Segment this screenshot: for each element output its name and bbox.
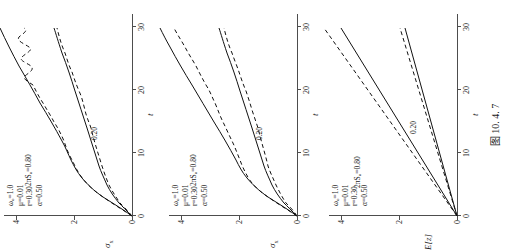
- panel-b-xtick-20: [297, 89, 301, 90]
- panel-a-y-axis-label-main: σ: [102, 244, 112, 248]
- panel-b-yticklabel-4: 4: [176, 220, 185, 230]
- panel-c-xticklabel-20: 20: [462, 86, 471, 94]
- panel-a-xticklabel-10: 10: [137, 149, 146, 157]
- panel-b-xtick-30: [297, 26, 301, 27]
- panel-b-xtick-10: [297, 152, 301, 153]
- panel-b-curve-high-dashed: [174, 28, 297, 216]
- panel-b-curve-low-solid: [219, 28, 297, 216]
- panel-a-yticklabel-0: 0: [127, 220, 136, 230]
- panel-a-curve-high-dashed: [18, 28, 132, 216]
- panel-b-curves: [169, 16, 297, 216]
- plot-panel-b: 0 10 20 30 0 2 4 t σx ω₀=1.0 μ=0.01 r=0.…: [165, 0, 330, 250]
- panel-c-curve-high-dashed: [324, 28, 457, 216]
- panel-c-curve-low-dashed: [400, 28, 457, 216]
- panel-a-xticklabel-20: 20: [137, 86, 146, 94]
- panel-c-yticklabel-4: 4: [336, 220, 345, 230]
- panel-b-yticklabel-0: 0: [292, 220, 301, 230]
- panel-a-yticklabel-2: 2: [69, 220, 78, 230]
- figure-root: 0 10 20 30 0 2 4 t σx ω₀=1.0 μ=0.01 r=0.…: [0, 0, 521, 250]
- panel-c-yticklabel-0: 0: [452, 220, 461, 230]
- panel-c-xtick-10: [457, 152, 461, 153]
- panel-a-rotated-frame: 0 10 20 30 0 2 4 t σx ω₀=1.0 μ=0.01 r=0.…: [0, 0, 168, 250]
- panel-c-yticklabel-2: 2: [394, 220, 403, 230]
- panel-b-xticklabel-20: 20: [302, 86, 311, 94]
- panel-c-xticklabel-10: 10: [462, 149, 471, 157]
- panel-c-xticklabel-0: 0: [462, 214, 471, 218]
- panel-a-curves: [4, 16, 132, 216]
- panel-a-xticklabel-0: 0: [137, 214, 146, 218]
- panel-b-x-axis-label: t: [310, 113, 320, 116]
- panel-a-xtick-20: [132, 89, 136, 90]
- panel-c-curves: [329, 16, 457, 216]
- panel-b-yticklabel-2: 2: [234, 220, 243, 230]
- panel-a-xtick-10: [132, 152, 136, 153]
- panel-c-xtick-20: [457, 89, 461, 90]
- panel-b-rotated-frame: 0 10 20 30 0 2 4 t σx ω₀=1.0 μ=0.01 r=0.…: [163, 0, 333, 250]
- panel-c-x-axis-label: t: [470, 113, 480, 116]
- panel-b-xticklabel-10: 10: [302, 149, 311, 157]
- panel-c-xticklabel-30: 30: [462, 23, 471, 31]
- panel-b-curve-low-dashed: [224, 28, 297, 216]
- panel-a-curve-low-solid: [54, 28, 132, 216]
- panel-b-xticklabel-0: 0: [302, 214, 311, 218]
- panel-a-xticklabel-30: 30: [137, 23, 146, 31]
- panel-b-y-axis-label: σx: [267, 240, 279, 248]
- figure-caption: 图 10. 4. 7: [486, 104, 501, 147]
- plot-panel-c: 0 10 20 30 0 2 4 t E[z] ω₀=1.0 μ=0.01 r=…: [330, 0, 485, 250]
- panel-a-xtick-30: [132, 26, 136, 27]
- panel-c-rotated-frame: 0 10 20 30 0 2 4 t E[z] ω₀=1.0 μ=0.01 r=…: [323, 0, 493, 250]
- panel-b-xticklabel-30: 30: [302, 23, 311, 31]
- panel-a-x-axis-label: t: [145, 113, 155, 116]
- panel-a-curve-high-solid: [0, 28, 132, 216]
- plot-panel-a: 0 10 20 30 0 2 4 t σx ω₀=1.0 μ=0.01 r=0.…: [0, 0, 165, 250]
- panel-c-y-axis-label: E[z]: [423, 234, 433, 250]
- panel-c-y-axis-label-main: E[z]: [423, 234, 433, 250]
- panel-b-y-axis-label-main: σ: [267, 244, 277, 248]
- panel-a-yticklabel-4: 4: [11, 220, 20, 230]
- panel-a-y-axis-label: σx: [102, 240, 114, 248]
- panel-c-curve-high-solid: [341, 28, 457, 216]
- panel-a-y-axis-label-sub: x: [106, 240, 113, 243]
- panel-b-y-axis-label-sub: x: [271, 240, 278, 243]
- panel-a-curve-low-dashed: [57, 28, 132, 216]
- panel-c-xtick-30: [457, 26, 461, 27]
